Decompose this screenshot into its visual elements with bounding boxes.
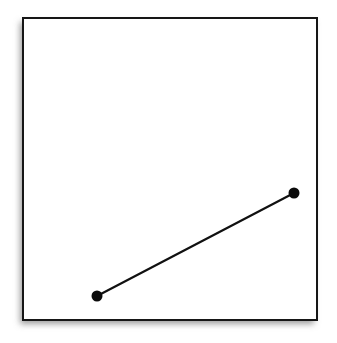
figure-canvas xyxy=(0,0,337,343)
data-point-end xyxy=(289,188,300,199)
grid-frame-border xyxy=(23,18,317,320)
data-point-start xyxy=(92,291,103,302)
grid-figure xyxy=(0,0,337,343)
